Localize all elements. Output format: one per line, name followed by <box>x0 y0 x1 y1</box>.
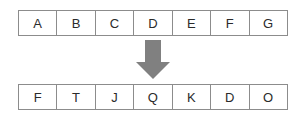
input-cell-label: C <box>110 17 120 30</box>
input-cell-label: G <box>263 17 273 30</box>
input-cell-5: E <box>173 11 211 35</box>
input-cell-label: F <box>226 17 234 30</box>
arrow-down-icon <box>135 40 171 80</box>
output-cell-label: Q <box>148 91 158 104</box>
output-cell-label: D <box>225 91 235 104</box>
letter-mapping-diagram: A B C D E F G F T J Q K D O <box>0 0 306 119</box>
output-cell-label: T <box>72 91 80 104</box>
output-cell-label: O <box>263 91 273 104</box>
output-cell-6: D <box>211 85 249 109</box>
input-cell-1: A <box>19 11 57 35</box>
input-row: A B C D E F G <box>18 10 288 36</box>
input-cell-label: B <box>72 17 81 30</box>
output-cell-2: T <box>57 85 95 109</box>
output-cell-label: J <box>111 91 118 104</box>
output-cell-label: K <box>187 91 196 104</box>
output-row: F T J Q K D O <box>18 84 288 110</box>
input-cell-7: G <box>250 11 287 35</box>
input-cell-6: F <box>211 11 249 35</box>
input-cell-3: C <box>96 11 134 35</box>
input-cell-label: E <box>187 17 196 30</box>
input-cell-label: A <box>33 17 42 30</box>
output-cell-1: F <box>19 85 57 109</box>
output-cell-label: F <box>34 91 42 104</box>
input-cell-label: D <box>148 17 158 30</box>
input-cell-4: D <box>134 11 172 35</box>
output-cell-3: J <box>96 85 134 109</box>
output-cell-4: Q <box>134 85 172 109</box>
input-cell-2: B <box>57 11 95 35</box>
output-cell-5: K <box>173 85 211 109</box>
output-cell-7: O <box>250 85 287 109</box>
